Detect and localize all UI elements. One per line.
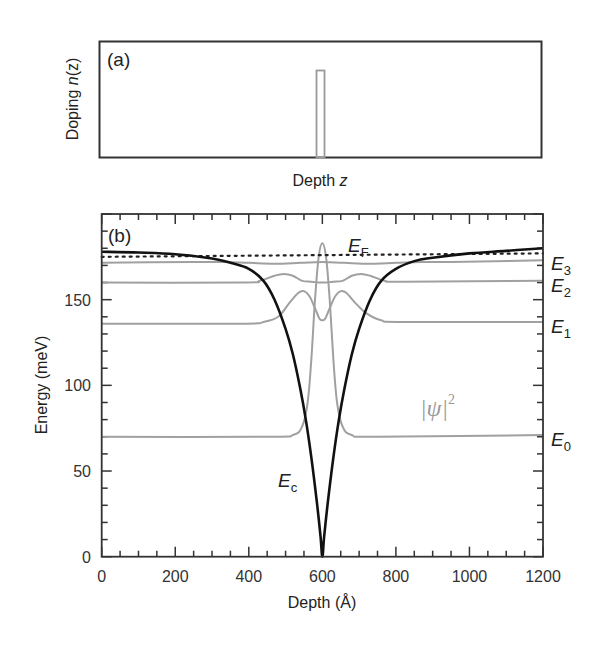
wavefunction-e0-curve <box>102 243 543 437</box>
panel-b: (b) 020040060080010001200 050100150 Dept… <box>33 214 571 611</box>
level-label-e2: E2 <box>551 275 571 300</box>
panel-a: (a) Doping n(z) Depth z <box>64 42 542 190</box>
y-tick-label: 0 <box>82 549 91 566</box>
x-tick-label: 1200 <box>525 568 561 585</box>
x-tick-label: 200 <box>162 568 189 585</box>
x-tick-label: 1000 <box>452 568 488 585</box>
panel-a-xlabel: Depth z <box>292 172 347 189</box>
wavefunction-label: |ψ|2 <box>420 392 455 421</box>
wavefunction-e2-curve <box>102 274 543 283</box>
conduction-band-label: Ec <box>278 470 298 495</box>
x-tick-labels: 020040060080010001200 <box>97 568 561 585</box>
y-tick-label: 100 <box>64 377 91 394</box>
energy-level-labels: E3 E2 E1 E0 <box>551 253 571 454</box>
x-tick-label: 0 <box>97 568 106 585</box>
panel-a-label: (a) <box>107 49 130 70</box>
x-tick-label: 600 <box>309 568 336 585</box>
level-label-e1: E1 <box>551 316 571 341</box>
panel-b-label: (b) <box>108 225 131 246</box>
doping-spike <box>317 71 325 158</box>
panel-b-ylabel: Energy (meV) <box>33 336 50 435</box>
axis-ticks <box>102 214 543 557</box>
panel-b-frame <box>102 214 543 557</box>
panel-a-ylabel: Doping n(z) <box>64 58 81 141</box>
y-tick-labels: 050100150 <box>64 292 91 566</box>
conduction-band-curve <box>102 248 543 556</box>
level-label-e0: E0 <box>551 429 571 454</box>
plot-curves <box>102 243 543 557</box>
y-tick-label: 50 <box>73 463 91 480</box>
wavefunction-e1-curve <box>102 291 543 324</box>
y-tick-label: 150 <box>64 292 91 309</box>
panel-a-frame <box>100 42 542 158</box>
figure: (a) Doping n(z) Depth z (b) 020040060080… <box>0 0 603 653</box>
wavefunction-e3-curve <box>102 260 543 263</box>
x-tick-label: 800 <box>383 568 410 585</box>
fermi-level-label: EF <box>348 235 369 260</box>
panel-b-xlabel: Depth (Å) <box>288 593 356 611</box>
x-tick-label: 400 <box>235 568 262 585</box>
